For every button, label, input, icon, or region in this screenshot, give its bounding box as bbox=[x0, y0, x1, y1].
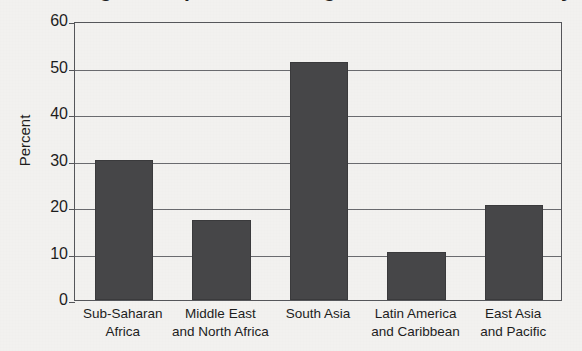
x-axis-label-line2: and North Africa bbox=[172, 323, 270, 341]
x-axis-label-line1: East Asia bbox=[485, 306, 541, 321]
bar[interactable] bbox=[485, 205, 544, 300]
y-axis-tick-mark bbox=[69, 116, 75, 117]
y-axis-tick-label: 60 bbox=[14, 12, 68, 30]
y-axis-tick-mark bbox=[69, 23, 75, 24]
x-axis-label-line2: Africa bbox=[74, 323, 172, 341]
y-axis-tick-label: 10 bbox=[14, 245, 68, 263]
x-axis-label-line1: Middle East bbox=[185, 306, 256, 321]
x-axis-tick-label: Latin Americaand Caribbean bbox=[367, 305, 465, 341]
x-axis-tick-labels: Sub-SaharanAfricaMiddle Eastand North Af… bbox=[74, 305, 562, 351]
y-axis-tick-mark bbox=[69, 163, 75, 164]
bar[interactable] bbox=[95, 160, 154, 300]
x-axis-label-line2: and Caribbean bbox=[367, 323, 465, 341]
x-axis-label-line1: South Asia bbox=[286, 306, 351, 321]
x-axis-tick-label: Middle Eastand North Africa bbox=[172, 305, 270, 341]
y-axis-title: Percent bbox=[16, 96, 33, 186]
y-axis-tick-mark bbox=[69, 256, 75, 257]
y-axis-tick-label: 0 bbox=[14, 291, 68, 309]
y-axis-tick-label: 50 bbox=[14, 59, 68, 77]
x-axis-label-line1: Sub-Saharan bbox=[83, 306, 163, 321]
y-axis-tick-label: 20 bbox=[14, 198, 68, 216]
chart-title: Percentage of Population Living on Less … bbox=[0, 0, 582, 4]
y-axis-tick-mark bbox=[69, 209, 75, 210]
y-axis-tick-mark bbox=[69, 302, 75, 303]
x-axis-tick-label: South Asia bbox=[269, 305, 367, 323]
x-axis-label-line2: and Pacific bbox=[464, 323, 562, 341]
plot-area bbox=[74, 22, 562, 301]
x-axis-tick-label: Sub-SaharanAfrica bbox=[74, 305, 172, 341]
x-axis-tick-label: East Asiaand Pacific bbox=[464, 305, 562, 341]
bar-chart-figure: Percentage of Population Living on Less … bbox=[0, 0, 582, 351]
bar[interactable] bbox=[192, 220, 251, 300]
x-axis-label-line1: Latin America bbox=[375, 306, 457, 321]
y-axis-tick-mark bbox=[69, 70, 75, 71]
bar[interactable] bbox=[290, 62, 349, 300]
bar[interactable] bbox=[387, 252, 446, 300]
